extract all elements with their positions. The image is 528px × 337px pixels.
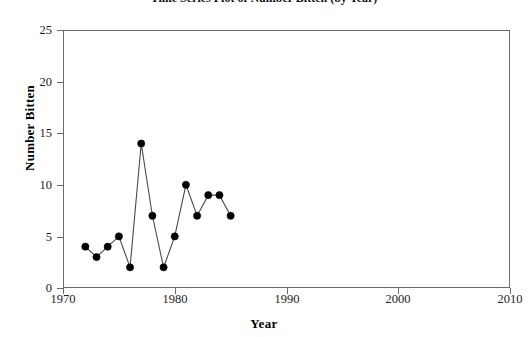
y-tick-label-10: 10 (18, 178, 52, 193)
x-tick-label-2000: 2000 (368, 292, 428, 307)
data-point (138, 140, 145, 147)
data-point (93, 253, 100, 260)
x-tick-label-2010: 2010 (480, 292, 528, 307)
y-tick-label-20: 20 (18, 75, 52, 90)
data-point (82, 243, 89, 250)
data-point (149, 212, 156, 219)
data-point (205, 192, 212, 199)
data-point (171, 233, 178, 240)
data-point (160, 264, 167, 271)
series-markers (82, 140, 234, 271)
chart-figure: Time Series Plot of Number Bitten (by Ye… (0, 0, 528, 337)
x-tick-label-1990: 1990 (257, 292, 317, 307)
y-tick-label-5: 5 (18, 230, 52, 245)
x-axis-title: Year (0, 316, 528, 332)
data-point (115, 233, 122, 240)
y-tick-label-15: 15 (18, 126, 52, 141)
data-point (104, 243, 111, 250)
data-point (227, 212, 234, 219)
y-tick-label-25: 25 (18, 23, 52, 38)
data-point (182, 181, 189, 188)
x-tick-label-1980: 1980 (145, 292, 205, 307)
data-point (194, 212, 201, 219)
data-point (216, 192, 223, 199)
series-number-bitten (63, 30, 510, 288)
chart-title: Time Series Plot of Number Bitten (by Ye… (0, 0, 528, 6)
data-point (126, 264, 133, 271)
x-tick-label-1970: 1970 (33, 292, 93, 307)
